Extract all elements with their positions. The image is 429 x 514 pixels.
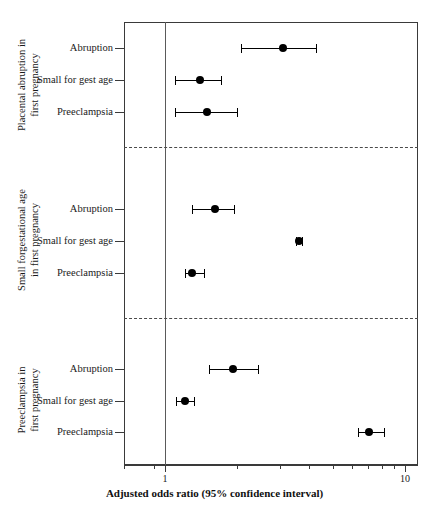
ci-lower-cap bbox=[241, 44, 242, 53]
row-label: Preeclampsia bbox=[57, 426, 113, 437]
point-estimate-marker bbox=[196, 76, 204, 84]
group-title-line: Small forgestational age bbox=[16, 165, 29, 315]
row-label: Small for gest age bbox=[37, 74, 113, 85]
group-title-line: Preeclampsia in bbox=[16, 325, 29, 475]
y-axis-tick bbox=[115, 209, 124, 210]
plot-frame bbox=[124, 22, 418, 465]
y-axis-tick bbox=[115, 80, 124, 81]
ci-lower-cap bbox=[192, 205, 193, 214]
ci-upper-cap bbox=[194, 397, 195, 406]
ci-upper-cap bbox=[204, 269, 205, 278]
group-title-line: first pregnancy bbox=[29, 10, 42, 160]
x-tick-minor bbox=[394, 465, 395, 469]
point-estimate-marker bbox=[279, 44, 287, 52]
x-axis-line bbox=[124, 465, 418, 466]
x-tick-minor bbox=[154, 465, 155, 469]
reference-line-or-1 bbox=[165, 22, 166, 465]
ci-upper-cap bbox=[258, 365, 259, 374]
ci-upper-cap bbox=[316, 44, 317, 53]
x-tick-minor bbox=[309, 465, 310, 469]
y-axis-tick bbox=[115, 112, 124, 113]
group-separator bbox=[124, 318, 418, 319]
ci-upper-cap bbox=[384, 428, 385, 437]
row-label: Abruption bbox=[70, 42, 113, 53]
ci-lower-cap bbox=[358, 428, 359, 437]
ci-lower-cap bbox=[175, 76, 176, 85]
point-estimate-marker bbox=[295, 237, 303, 245]
x-tick-minor bbox=[352, 465, 353, 469]
x-tick-major bbox=[165, 465, 166, 472]
y-axis-tick bbox=[115, 241, 124, 242]
x-tick-label-1: 1 bbox=[145, 473, 185, 484]
x-tick-minor bbox=[333, 465, 334, 469]
forest-plot-figure: Placental abruption infirst pregnancySma… bbox=[0, 0, 429, 514]
row-label: Abruption bbox=[70, 203, 113, 214]
ci-lower-cap bbox=[175, 108, 176, 117]
y-axis-tick bbox=[115, 432, 124, 433]
ci-upper-cap bbox=[237, 108, 238, 117]
ci-lower-cap bbox=[185, 269, 186, 278]
y-axis-tick bbox=[115, 369, 124, 370]
group-separator bbox=[124, 147, 418, 148]
ci-upper-cap bbox=[221, 76, 222, 85]
row-label: Small for gest age bbox=[37, 395, 113, 406]
y-axis-tick bbox=[115, 401, 124, 402]
x-tick-minor bbox=[124, 465, 125, 469]
y-axis-tick bbox=[115, 48, 124, 49]
row-label: Preeclampsia bbox=[57, 267, 113, 278]
row-label: Abruption bbox=[70, 363, 113, 374]
row-label: Preeclampsia bbox=[57, 106, 113, 117]
group-title-line: Placental abruption in bbox=[16, 10, 29, 160]
row-label: Small for gest age bbox=[37, 235, 113, 246]
x-tick-major bbox=[405, 465, 406, 472]
group-title: Placental abruption infirst pregnancy bbox=[16, 10, 44, 160]
x-tick-minor bbox=[368, 465, 369, 469]
point-estimate-marker bbox=[229, 365, 237, 373]
x-tick-minor bbox=[382, 465, 383, 469]
ci-upper-cap bbox=[234, 205, 235, 214]
ci-lower-cap bbox=[176, 397, 177, 406]
x-tick-label-10: 10 bbox=[385, 473, 425, 484]
point-estimate-marker bbox=[181, 397, 189, 405]
y-axis-tick bbox=[115, 273, 124, 274]
x-axis-title: Adjusted odds ratio (95% confidence inte… bbox=[0, 487, 429, 499]
ci-lower-cap bbox=[209, 365, 210, 374]
x-tick-minor bbox=[280, 465, 281, 469]
x-tick-minor bbox=[237, 465, 238, 469]
